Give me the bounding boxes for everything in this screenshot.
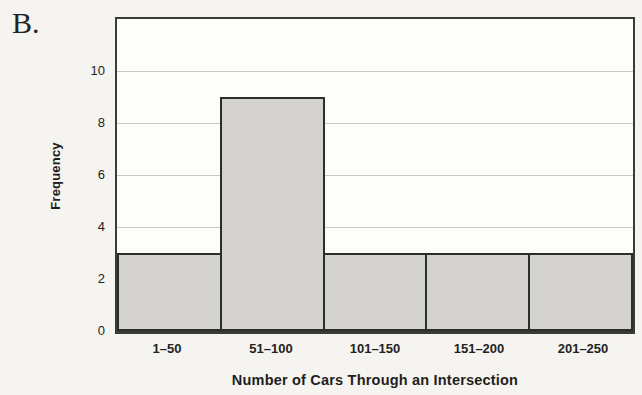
y-tick-label-2: 2: [35, 271, 105, 287]
x-axis-labels: 1–5051–100101–150151–200201–250: [115, 341, 635, 356]
x-tick-label-151–200: 151–200: [427, 341, 531, 356]
bar-201–250: [528, 253, 633, 331]
bar-151–200: [425, 253, 530, 331]
x-tick-label-201–250: 201–250: [531, 341, 635, 356]
y-tick-label-8: 8: [35, 115, 105, 131]
bars-layer: [117, 19, 633, 331]
page: B. Frequency 0246810 1–5051–100101–15015…: [0, 0, 642, 395]
bar-101–150: [323, 253, 428, 331]
bar-1–50: [117, 253, 222, 331]
y-tick-label-10: 10: [35, 63, 105, 79]
y-tick-label-0: 0: [35, 323, 105, 339]
x-axis-title: Number of Cars Through an Intersection: [115, 372, 635, 388]
y-tick-label-4: 4: [35, 219, 105, 235]
bar-51–100: [220, 97, 325, 331]
x-tick-label-51–100: 51–100: [219, 341, 323, 356]
y-axis-labels: 0246810: [35, 19, 105, 331]
plot-area: [115, 17, 635, 334]
y-tick-label-6: 6: [35, 167, 105, 183]
x-tick-label-101–150: 101–150: [323, 341, 427, 356]
x-tick-label-1–50: 1–50: [115, 341, 219, 356]
